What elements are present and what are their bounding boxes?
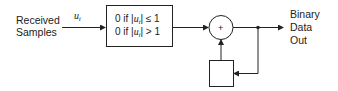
decision-rule-2: 0 if |ut| > 1	[115, 25, 160, 42]
output-label: Binary Data Out	[290, 8, 320, 47]
output-label-line1: Binary	[290, 8, 320, 21]
signal-subscript: t	[79, 16, 81, 22]
feedback-line	[234, 28, 258, 74]
input-label: Received Samples	[16, 14, 60, 38]
signal-label: ut	[74, 10, 81, 25]
input-label-line1: Received	[16, 14, 60, 26]
output-label-line2: Data	[290, 21, 320, 34]
summer-plus-icon: +	[218, 22, 223, 34]
delay-block	[210, 61, 234, 87]
output-label-line3: Out	[290, 34, 320, 47]
input-label-line2: Samples	[16, 26, 60, 38]
